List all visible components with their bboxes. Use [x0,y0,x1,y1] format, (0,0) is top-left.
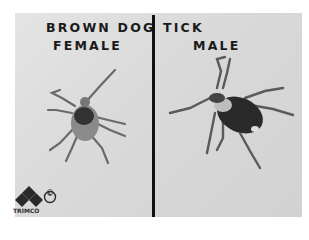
logo-text: TRIMCO [13,207,39,214]
female-label: FEMALE [53,38,122,53]
male-tick-image [155,53,300,178]
trimco-logo: © TRIMCO [0,176,60,220]
male-label: MALE [193,38,240,53]
female-tick-image [30,58,140,178]
title-left: BROWN DOG [46,20,155,35]
copyright-symbol: © [46,189,54,198]
title-right: TICK [163,20,204,35]
